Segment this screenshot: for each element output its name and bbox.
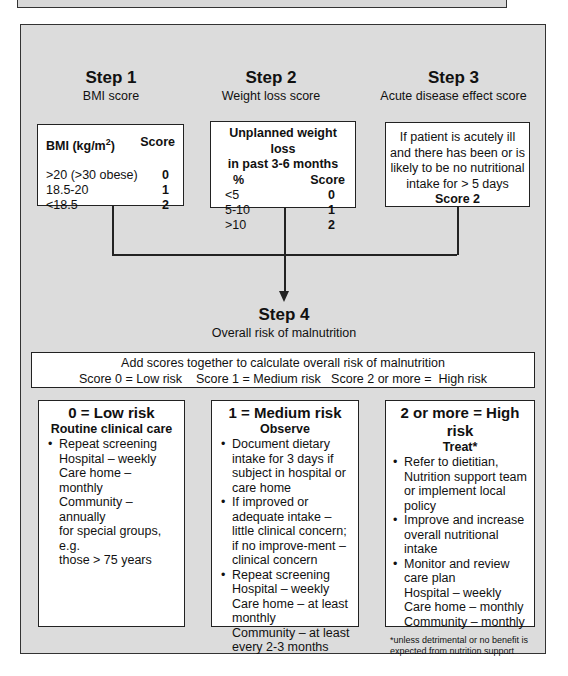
medium-risk-line: monthly <box>232 611 352 626</box>
step-3-title: Step 3 <box>366 68 541 88</box>
acute-line: intake for > 5 days <box>390 177 525 193</box>
acute-score: Score 2 <box>390 192 525 208</box>
high-risk-line: Hospital – weekly <box>404 586 530 601</box>
weight-score-header: Score <box>310 173 345 188</box>
arrow-down-icon <box>279 291 289 302</box>
step-3-subtitle: Acute disease effect score <box>366 88 541 104</box>
bmi-row: >20 (>30 obese)0 <box>46 168 175 183</box>
high-risk-title: 2 or more = High risk <box>390 404 530 440</box>
high-risk-bullet: Improve and increase overall nutritional… <box>404 513 530 557</box>
medium-risk-line: Community – at least <box>232 626 352 641</box>
weight-row: 5-101 <box>221 203 345 218</box>
step-2-title: Step 2 <box>196 68 346 88</box>
medium-risk-box: 1 = Medium risk Observe Document dietary… <box>211 400 359 627</box>
weight-loss-score-box: Unplanned weight loss in past 3-6 months… <box>210 121 356 208</box>
top-panel-edge <box>17 0 507 8</box>
medium-risk-bullet: Document dietary intake for 3 days if su… <box>232 437 352 495</box>
medium-risk-actions: Document dietary intake for 3 days if su… <box>218 437 352 582</box>
step-4-subtitle: Overall risk of malnutrition <box>184 325 384 341</box>
connector-arrow-shaft <box>284 208 286 292</box>
must-flowchart-panel: Step 1 BMI score Step 2 Weight loss scor… <box>20 24 546 654</box>
high-risk-line: Community – monthly <box>404 615 530 630</box>
summary-line-1: Add scores together to calculate overall… <box>32 356 534 372</box>
medium-risk-subtitle: Observe <box>218 422 352 437</box>
step-2-subtitle: Weight loss score <box>196 88 346 104</box>
high-risk-bullet: Monitor and review care plan <box>404 557 530 586</box>
weight-loss-title-1: Unplanned weight loss <box>221 126 345 157</box>
medium-risk-line: every 2-3 months <box>232 640 352 655</box>
high-risk-line: Care home – monthly <box>404 600 530 615</box>
low-risk-line: Community – annually <box>59 495 178 524</box>
medium-risk-title: 1 = Medium risk <box>218 404 352 422</box>
acute-line: If patient is acutely ill <box>390 130 525 146</box>
low-risk-bullet: Repeat screening <box>59 437 178 452</box>
summary-line-2: Score 0 = Low risk Score 1 = Medium risk… <box>32 372 534 388</box>
acute-disease-score-box: If patient is acutely ill and there has … <box>385 122 530 207</box>
step-2-header: Step 2 Weight loss score <box>196 68 346 104</box>
score-summary-box: Add scores together to calculate overall… <box>31 352 535 388</box>
medium-risk-bullet: Repeat screening <box>232 568 352 583</box>
acute-line: likely to be no nutritional <box>390 161 525 177</box>
low-risk-box: 0 = Low risk Routine clinical care Repea… <box>38 400 185 627</box>
step-3-header: Step 3 Acute disease effect score <box>366 68 541 104</box>
weight-row: >102 <box>221 218 345 233</box>
high-risk-box: 2 or more = High risk Treat* Refer to di… <box>385 400 535 627</box>
step-4-title: Step 4 <box>184 305 384 325</box>
high-risk-actions: Refer to dietitian, Nutrition support te… <box>390 455 530 586</box>
step-1-header: Step 1 BMI score <box>51 68 171 104</box>
high-risk-bullet: Refer to dietitian, Nutrition support te… <box>404 455 530 513</box>
medium-risk-line: Hospital – weekly <box>232 582 352 597</box>
bmi-row: <18.52 <box>46 198 175 213</box>
low-risk-actions: Repeat screening <box>45 437 178 452</box>
bmi-score-header: Score <box>140 135 175 154</box>
percent-header: % <box>233 173 244 188</box>
connector-line <box>112 206 114 254</box>
bmi-score-box: BMI (kg/m2) Score >20 (>30 obese)0 18.5-… <box>37 124 184 206</box>
step-4-header: Step 4 Overall risk of malnutrition <box>184 305 384 341</box>
high-risk-subtitle: Treat* <box>390 440 530 455</box>
low-risk-line: for special groups, e.g. <box>59 524 178 553</box>
step-1-title: Step 1 <box>51 68 171 88</box>
bmi-row: 18.5-201 <box>46 183 175 198</box>
low-risk-line: Care home – monthly <box>59 466 178 495</box>
low-risk-title: 0 = Low risk <box>45 404 178 422</box>
medium-risk-bullet: If improved or adequate intake – little … <box>232 495 352 568</box>
acute-line: and there has been or is <box>390 146 525 162</box>
medium-risk-line: Care home – at least <box>232 597 352 612</box>
high-risk-footnote: *unless detrimental or no benefit is exp… <box>390 635 530 657</box>
low-risk-line: Hospital – weekly <box>59 452 178 467</box>
weight-row: <50 <box>221 188 345 203</box>
low-risk-subtitle: Routine clinical care <box>45 422 178 437</box>
step-1-subtitle: BMI score <box>51 88 171 104</box>
weight-loss-title-2: in past 3-6 months <box>221 157 345 173</box>
connector-line <box>457 207 459 255</box>
low-risk-line: those > 75 years <box>59 553 178 568</box>
bmi-header: BMI (kg/m2) <box>46 135 115 154</box>
